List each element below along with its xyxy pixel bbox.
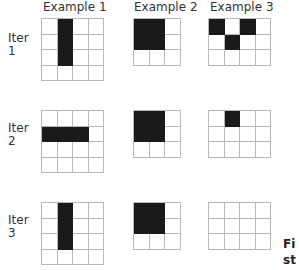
- empty-cell: [89, 250, 105, 266]
- empty-cell: [89, 127, 105, 143]
- empty-cell: [165, 142, 181, 158]
- empty-cell: [73, 66, 89, 82]
- empty-cell: [165, 127, 181, 143]
- empty-cell: [240, 234, 256, 250]
- empty-cell: [225, 219, 241, 235]
- empty-cell: [42, 234, 58, 250]
- filled-cell: [150, 19, 166, 35]
- filled-cell: [134, 19, 150, 35]
- empty-cell: [89, 35, 105, 51]
- empty-cell: [225, 142, 241, 158]
- empty-cell: [165, 111, 181, 127]
- empty-cell: [150, 142, 166, 158]
- filled-cell: [225, 111, 241, 127]
- caption-line-2: st: [283, 252, 296, 268]
- empty-cell: [73, 50, 89, 66]
- empty-cell: [209, 35, 225, 51]
- empty-cell: [225, 234, 241, 250]
- empty-cell: [89, 50, 105, 66]
- grid-iter2-example2: [133, 110, 181, 158]
- empty-cell: [89, 142, 105, 158]
- empty-cell: [73, 219, 89, 235]
- column-title-example-3: Example 3: [210, 0, 274, 14]
- empty-cell: [134, 142, 150, 158]
- empty-cell: [89, 66, 105, 82]
- empty-cell: [73, 35, 89, 51]
- filled-cell: [58, 219, 74, 235]
- grid-iter1-example3: [208, 18, 271, 66]
- empty-cell: [89, 203, 105, 219]
- empty-cell: [165, 234, 181, 250]
- filled-cell: [209, 19, 225, 35]
- filled-cell: [240, 19, 256, 35]
- empty-cell: [89, 111, 105, 127]
- empty-cell: [256, 35, 272, 51]
- filled-cell: [134, 111, 150, 127]
- empty-cell: [58, 250, 74, 266]
- grid-iter2-example3: [208, 110, 271, 158]
- grid-iter3-example2: [133, 202, 181, 250]
- empty-cell: [165, 50, 181, 66]
- empty-cell: [240, 111, 256, 127]
- empty-cell: [209, 234, 225, 250]
- caption-line-1: Fi: [283, 236, 296, 252]
- filled-cell: [150, 219, 166, 235]
- filled-cell: [150, 111, 166, 127]
- empty-cell: [73, 234, 89, 250]
- empty-cell: [42, 35, 58, 51]
- column-title-example-2: Example 2: [134, 0, 198, 14]
- empty-cell: [73, 250, 89, 266]
- empty-cell: [89, 234, 105, 250]
- grid-iter3-example3: [208, 202, 271, 250]
- empty-cell: [209, 203, 225, 219]
- empty-cell: [150, 50, 166, 66]
- empty-cell: [240, 142, 256, 158]
- row-label-number: 3: [8, 227, 29, 240]
- filled-cell: [134, 35, 150, 51]
- row-label-iter-3: Iter 3: [8, 214, 29, 240]
- empty-cell: [42, 111, 58, 127]
- empty-cell: [42, 50, 58, 66]
- filled-cell: [150, 127, 166, 143]
- empty-cell: [240, 127, 256, 143]
- figure-caption-fragment: Fi st: [283, 236, 296, 268]
- empty-cell: [165, 19, 181, 35]
- empty-cell: [42, 142, 58, 158]
- empty-cell: [240, 35, 256, 51]
- empty-cell: [89, 19, 105, 35]
- grid-iter1-example2: [133, 18, 181, 66]
- empty-cell: [256, 203, 272, 219]
- empty-cell: [134, 50, 150, 66]
- empty-cell: [256, 50, 272, 66]
- filled-cell: [58, 35, 74, 51]
- empty-cell: [73, 158, 89, 174]
- empty-cell: [89, 219, 105, 235]
- empty-cell: [58, 142, 74, 158]
- empty-cell: [209, 50, 225, 66]
- empty-cell: [209, 142, 225, 158]
- empty-cell: [225, 50, 241, 66]
- row-label-iter-2: Iter 2: [8, 122, 29, 148]
- row-label-number: 1: [8, 45, 29, 58]
- empty-cell: [73, 19, 89, 35]
- grid-iter3-example1: [41, 202, 104, 265]
- filled-cell: [73, 127, 89, 143]
- empty-cell: [165, 219, 181, 235]
- empty-cell: [134, 234, 150, 250]
- empty-cell: [42, 203, 58, 219]
- empty-cell: [42, 19, 58, 35]
- empty-cell: [58, 158, 74, 174]
- filled-cell: [225, 35, 241, 51]
- empty-cell: [73, 111, 89, 127]
- filled-cell: [134, 127, 150, 143]
- empty-cell: [58, 66, 74, 82]
- filled-cell: [58, 19, 74, 35]
- empty-cell: [225, 127, 241, 143]
- empty-cell: [165, 203, 181, 219]
- filled-cell: [42, 127, 58, 143]
- empty-cell: [42, 158, 58, 174]
- empty-cell: [42, 66, 58, 82]
- empty-cell: [165, 35, 181, 51]
- filled-cell: [134, 203, 150, 219]
- empty-cell: [240, 50, 256, 66]
